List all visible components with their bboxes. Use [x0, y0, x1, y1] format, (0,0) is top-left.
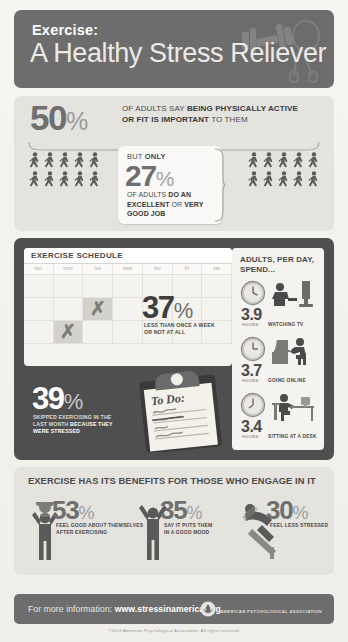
figure-column	[43, 152, 56, 188]
figure-column	[88, 152, 101, 188]
calendar-cell[interactable]	[83, 321, 113, 344]
walking-person-icon	[58, 152, 71, 169]
stat-27-sub-bold-2: EXCELLENT	[127, 201, 170, 208]
figure-group-left	[28, 152, 101, 188]
stat-39-label-line2-bold: BECAUSE THEY	[70, 421, 112, 427]
benefit-35-label-line2: IN A GOOD MOOD	[164, 529, 209, 535]
benefit-item-30: 30% FEEL LESS STRESSED	[240, 495, 332, 567]
calendar-day-header: wed	[113, 264, 143, 274]
x-mark-icon: ✗	[60, 320, 76, 343]
sedentary-hours-unit: HOURS	[242, 434, 259, 439]
calendar-cell[interactable]	[54, 298, 84, 321]
stat-50-text-bold-2: OR FIT IS IMPORTANT	[122, 115, 209, 124]
sedentary-title: ADULTS, PER DAY, SPEND...	[240, 255, 320, 275]
walking-person-icon	[262, 171, 275, 188]
sedentary-activity-label: SITTING AT A DESK	[268, 434, 322, 440]
sedentary-row-tv: 3.9 HOURS WATCHING TV	[238, 280, 320, 334]
stat-39-label-line3-bold: WERE STRESSED	[33, 428, 80, 434]
laptop-user-icon	[268, 336, 318, 370]
stat-50-percent: 50%	[30, 98, 87, 138]
calendar-day-header: tue	[83, 264, 113, 274]
figure-column	[73, 152, 86, 188]
sedentary-row-desk: 3.4 HOURS SITTING AT A DESK	[238, 392, 320, 446]
benefit-30-label: FEEL LESS STRESSED	[270, 522, 334, 529]
stat-39-label: SKIPPED EXERCISING IN THE LAST MONTH BEC…	[33, 414, 127, 435]
calendar-day-headers: sun mon tue wed thu fri sat	[24, 264, 232, 275]
walking-person-icon	[73, 171, 86, 188]
stat-37-percent: 37%	[142, 290, 192, 326]
calendar-cell[interactable]	[113, 298, 143, 321]
stat-39-label-line2-plain: LAST MONTH	[33, 421, 70, 427]
walking-person-icon	[277, 171, 290, 188]
calendar-day-header: sat	[202, 264, 232, 274]
benefit-30-percent-sign: %	[293, 503, 308, 523]
calendar-cell[interactable]	[113, 321, 143, 344]
benefits-title: EXERCISE HAS ITS BENEFITS FOR THOSE WHO …	[28, 476, 316, 486]
benefit-item-35: 35% SAY IT PUTS THEM IN A GOOD MOOD	[136, 495, 236, 567]
calendar-day-header: thu	[143, 264, 173, 274]
benefit-item-53: 53% FEEL GOOD ABOUT THEMSELVES AFTER EXE…	[28, 495, 128, 567]
walking-person-icon	[307, 171, 320, 188]
infographic-page: Exercise: A Healthy Stress Reliever 50% …	[0, 0, 348, 642]
schedule-panel: EXERCISE SCHEDULE sun mon tue wed thu fr…	[14, 238, 334, 460]
sedentary-row-online: 3.7 HOURS GOING ONLINE	[238, 336, 320, 390]
calendar-cell[interactable]	[24, 298, 54, 321]
calendar-cell-marked[interactable]: ✗	[83, 298, 113, 321]
stat-27-sub-plain-2: OR	[170, 201, 185, 208]
sedentary-activity-label: GOING ONLINE	[268, 378, 322, 384]
calendar-day-header: fri	[173, 264, 203, 274]
stat-39-percent-sign: %	[64, 389, 82, 414]
stat-50-text-bold-1: BEING PHYSICALLY ACTIVE	[187, 104, 298, 113]
benefit-53-label-line1: FEEL GOOD ABOUT THEMSELVES	[56, 522, 143, 528]
todo-clipboard: To Do:	[136, 366, 228, 452]
stat-27-sub-bold-4: GOOD JOB	[127, 210, 166, 217]
stat-37-value: 37	[142, 290, 174, 325]
apa-logo-icon	[200, 601, 216, 621]
x-mark-icon: ✗	[90, 297, 106, 320]
calendar-day-header: sun	[24, 264, 54, 274]
walking-person-icon	[88, 171, 101, 188]
stat-50-text-plain-2: TO THEM	[209, 115, 248, 124]
sedentary-title-line2: SPEND...	[240, 265, 275, 274]
calendar-cell[interactable]	[202, 275, 232, 298]
sedentary-hours-unit: HOURS	[242, 322, 259, 327]
benefit-53-label-line2: AFTER EXERCISING	[56, 529, 107, 535]
stat-50-value: 50	[30, 98, 66, 137]
benefit-35-label-line1: SAY IT PUTS THEM	[164, 522, 212, 528]
walking-person-icon	[43, 171, 56, 188]
calendar-title: EXERCISE SCHEDULE	[24, 248, 232, 264]
stat-37-label: LESS THAN ONCE A WEEK OR NOT AT ALL	[144, 322, 230, 336]
stat-39-percent: 39%	[32, 381, 82, 417]
desk-sitting-icon	[268, 392, 318, 426]
apa-branding: AMERICAN PSYCHOLOGICAL ASSOCIATION	[200, 601, 322, 621]
calendar-cell[interactable]	[83, 275, 113, 298]
stat-27-percent: 27%	[125, 159, 173, 193]
benefit-35-label: SAY IT PUTS THEM IN A GOOD MOOD	[164, 522, 252, 535]
stat-27-sub-plain-1: OF ADULTS	[127, 191, 168, 198]
footer-info: For more information: www.stressinameric…	[28, 604, 221, 614]
figure-column	[277, 152, 290, 188]
walking-person-icon	[247, 152, 260, 169]
stat-37-label-line1: LESS THAN ONCE A WEEK	[144, 322, 215, 328]
calendar-cell[interactable]	[54, 275, 84, 298]
figure-column	[247, 152, 260, 188]
walking-person-icon	[247, 171, 260, 188]
stat-27-sub-bold-3: VERY	[184, 201, 203, 208]
calendar-cell[interactable]	[113, 275, 143, 298]
stat-50-description: OF ADULTS SAY BEING PHYSICALLY ACTIVE OR…	[122, 103, 326, 125]
header-title-primary: Exercise:	[32, 22, 98, 38]
stat-39-value: 39	[32, 381, 64, 416]
calendar-cell-marked[interactable]: ✗	[54, 321, 84, 344]
walking-person-icon	[262, 152, 275, 169]
calendar-cell[interactable]	[24, 321, 54, 344]
stat-27-percent-sign: %	[156, 167, 173, 190]
benefit-30-label-line1: FEEL LESS STRESSED	[270, 522, 328, 528]
walking-person-icon	[292, 152, 305, 169]
walking-person-icon	[307, 152, 320, 169]
figure-group-right	[247, 152, 320, 188]
stat-27-description: OF ADULTS DO AN EXCELLENT OR VERY GOOD J…	[127, 190, 217, 219]
sedentary-activity-label: WATCHING TV	[268, 322, 322, 328]
calendar-cell[interactable]	[202, 298, 232, 321]
calendar-cell[interactable]	[24, 275, 54, 298]
footer-bar: For more information: www.stressinameric…	[14, 594, 334, 624]
